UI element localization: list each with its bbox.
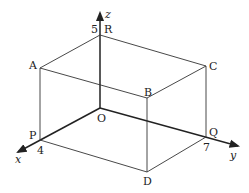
z-axis-label: z [104,8,111,21]
cuboid-edges [40,35,206,172]
cuboid-diagram: z x y 5 4 7 R A C B O P Q D [0,0,249,193]
edge-A-B [40,68,147,98]
z-tick-label: 5 [91,23,98,36]
point-O-label: O [97,112,106,125]
y-tick-label: 7 [203,141,210,154]
edge-P-D [40,140,147,172]
point-Q-label: Q [209,126,218,139]
point-D-label: D [143,175,152,188]
edge-C-B [147,66,206,98]
edge-R-C [100,35,206,66]
point-C-label: C [209,60,217,73]
edge-Q-D [147,137,206,172]
x-axis-label: x [15,153,22,166]
point-P-label: P [29,129,37,142]
point-A-label: A [28,59,38,72]
edge-R-A [40,35,100,68]
point-R-label: R [104,23,113,36]
point-B-label: B [144,86,152,99]
y-axis-label: y [229,149,237,162]
x-tick-label: 4 [37,144,44,157]
